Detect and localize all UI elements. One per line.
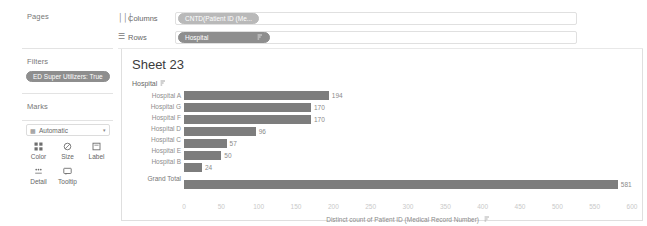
category-label-grand-total[interactable]: Grand Total: [132, 173, 184, 184]
divider: [22, 93, 113, 94]
bar-value-label: 170: [314, 103, 325, 112]
value-axis: 050100150200250300350400450500550600: [184, 203, 636, 213]
category-label[interactable]: Hospital F: [132, 112, 184, 123]
divider: [22, 48, 113, 49]
page-title: Sheet 23: [132, 57, 184, 72]
axis-tick-label: 150: [291, 203, 302, 210]
bar-mark[interactable]: [184, 91, 329, 100]
bar-row: 581: [184, 179, 636, 190]
marks-detail-label: Detail: [24, 178, 53, 185]
bar-mark[interactable]: [184, 139, 227, 148]
axis-tick-label: 500: [552, 203, 563, 210]
category-label[interactable]: Hospital B: [132, 156, 184, 167]
rows-shelf-dropzone[interactable]: Hospital: [175, 31, 577, 44]
bar-chart: Hospital AHospital GHospital FHospital D…: [132, 90, 636, 218]
axis-tick-label: 200: [328, 203, 339, 210]
filter-pill-ed-super-utilizers[interactable]: ED Super Utilizers: True: [26, 71, 110, 82]
tableau-worksheet: Pages Filters ED Super Utilizers: True M…: [0, 0, 647, 226]
marks-label-label: Label: [82, 153, 111, 160]
columns-pill-cntd-patient-id[interactable]: CNTD(Patient ID (Me...: [178, 13, 259, 24]
row-field-header-label: Hospital: [132, 80, 157, 87]
row-field-header: Hospital: [132, 80, 166, 87]
automatic-mark-icon: ▩: [30, 127, 36, 134]
bar-row: 24: [184, 162, 636, 173]
category-label[interactable]: Hospital E: [132, 145, 184, 156]
bar-mark[interactable]: [184, 103, 311, 112]
marks-empty-slot: [82, 166, 111, 185]
columns-shelf: │││ Columns CNTD(Patient ID (Me...: [118, 9, 577, 27]
axis-tick-label: 50: [218, 203, 225, 210]
axis-tick-label: 100: [253, 203, 264, 210]
rows-icon: ☰: [118, 33, 128, 41]
axis-tick-label: 600: [627, 203, 638, 210]
size-circle-icon: [53, 141, 82, 152]
category-label[interactable]: Hospital A: [132, 90, 184, 101]
bar-value-label: 194: [332, 91, 343, 100]
marks-label: Marks: [27, 102, 48, 111]
axis-tick-label: 250: [365, 203, 376, 210]
bar-row: 50: [184, 150, 636, 161]
tooltip-bubble-icon: [53, 166, 82, 177]
marks-color-button[interactable]: Color: [24, 141, 53, 160]
bar-row: 57: [184, 138, 636, 149]
bar-value-label: 57: [230, 139, 237, 148]
bar-row: 170: [184, 114, 636, 125]
bar-row: 170: [184, 102, 636, 113]
marks-size-button[interactable]: Size: [53, 141, 82, 160]
category-label[interactable]: Hospital G: [132, 101, 184, 112]
bar-value-label: 581: [621, 180, 632, 189]
category-label[interactable]: Hospital C: [132, 134, 184, 145]
value-axis-title: Distinct count of Patient ID (Medical Re…: [184, 216, 632, 223]
rows-pill-hospital[interactable]: Hospital: [178, 32, 270, 43]
sort-descending-icon[interactable]: [484, 216, 490, 223]
columns-shelf-label: Columns: [128, 14, 175, 23]
columns-shelf-dropzone[interactable]: CNTD(Patient ID (Me...: [175, 12, 577, 25]
marks-size-label: Size: [53, 153, 82, 160]
divider: [22, 120, 113, 121]
detail-dots-icon: [24, 166, 53, 177]
caret-down-icon: ▾: [103, 127, 106, 133]
rows-shelf: ☰ Rows Hospital: [118, 28, 577, 46]
bar-value-label: 24: [205, 163, 212, 172]
axis-tick-label: 350: [440, 203, 451, 210]
label-tag-icon: [82, 141, 111, 152]
marks-card-buttons: Color Size: [24, 141, 112, 185]
category-label[interactable]: Hospital D: [132, 123, 184, 134]
marks-type-label: Automatic: [39, 127, 103, 134]
axis-tick-label: 400: [477, 203, 488, 210]
pages-label: Pages: [27, 12, 49, 21]
bar-mark[interactable]: [184, 115, 311, 124]
color-palette-icon: [24, 141, 53, 152]
marks-type-dropdown[interactable]: ▩ Automatic ▾: [26, 124, 110, 136]
bar-row: 194: [184, 90, 636, 101]
rows-shelf-label: Rows: [128, 33, 175, 42]
axis-tick-label: 550: [589, 203, 600, 210]
sort-descending-icon[interactable]: [257, 34, 263, 41]
rows-pill-label: Hospital: [185, 34, 208, 41]
bar-value-label: 50: [224, 151, 231, 160]
axis-tick-label: 0: [182, 203, 186, 210]
bar-row: 96: [184, 126, 636, 137]
marks-color-label: Color: [24, 153, 53, 160]
left-panel: Pages Filters ED Super Utilizers: True M…: [0, 0, 113, 226]
value-axis-title-label: Distinct count of Patient ID (Medical Re…: [326, 216, 479, 223]
category-axis: Hospital AHospital GHospital FHospital D…: [132, 90, 184, 184]
marks-tooltip-label: Tooltip: [53, 178, 82, 185]
bars-container: 19417017096575024581: [184, 90, 636, 189]
bar-mark[interactable]: [184, 151, 221, 160]
columns-icon: │││: [118, 14, 128, 22]
marks-tooltip-button[interactable]: Tooltip: [53, 166, 82, 185]
marks-detail-button[interactable]: Detail: [24, 166, 53, 185]
filters-label: Filters: [27, 57, 48, 66]
worksheet-view: Sheet 23 Hospital Hospital AHospital GHo…: [121, 49, 643, 221]
axis-tick-label: 450: [515, 203, 526, 210]
bar-value-label: 170: [314, 115, 325, 124]
bar-mark[interactable]: [184, 180, 618, 189]
sort-descending-icon[interactable]: [160, 80, 166, 87]
bar-value-label: 96: [259, 127, 266, 136]
marks-label-button[interactable]: Label: [82, 141, 111, 160]
bar-mark[interactable]: [184, 127, 256, 136]
axis-tick-label: 300: [403, 203, 414, 210]
bar-mark[interactable]: [184, 163, 202, 172]
